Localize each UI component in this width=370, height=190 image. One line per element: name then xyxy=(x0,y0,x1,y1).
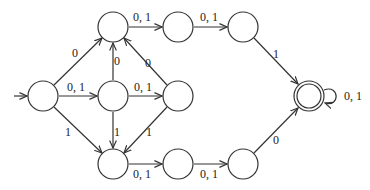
label-q5-q1: 0 xyxy=(145,56,151,70)
label-q8-qf: 0 xyxy=(273,133,279,147)
label-q0-q3: 1 xyxy=(65,125,71,139)
label-q3-q6: 0, 1 xyxy=(133,167,151,181)
label-q0-q2: 0, 1 xyxy=(67,80,85,94)
state-q0 xyxy=(28,81,58,111)
state-q8 xyxy=(228,149,258,179)
state-q3 xyxy=(98,149,128,179)
state-q5 xyxy=(163,81,193,111)
label-q6-q8: 0, 1 xyxy=(200,167,218,181)
automaton-diagram: 0 0, 1 1 0 0, 1 1 0 1 0, 1 0, 1 1 0, 1 0… xyxy=(0,0,370,190)
edge-q0-q1 xyxy=(54,38,102,85)
label-qf-self-loop: 0, 1 xyxy=(344,89,362,103)
label-q5-q3: 1 xyxy=(146,125,152,139)
label-q2-q1: 0 xyxy=(114,54,120,68)
label-q0-q1: 0 xyxy=(72,46,78,60)
state-q4 xyxy=(163,12,193,42)
state-q2 xyxy=(98,81,128,111)
edge-q0-q3 xyxy=(54,107,102,153)
label-q2-q3: 1 xyxy=(114,125,120,139)
edge-qf-self-loop xyxy=(324,89,336,104)
label-q1-q4: 0, 1 xyxy=(133,10,151,24)
label-q4-q7: 0, 1 xyxy=(200,10,218,24)
label-q7-qf: 1 xyxy=(273,47,279,61)
state-q7 xyxy=(228,12,258,42)
state-q6 xyxy=(163,149,193,179)
state-qf-outer xyxy=(294,81,324,111)
state-q1 xyxy=(98,12,128,42)
edge-q7-qf xyxy=(254,38,298,84)
label-q2-q5: 0, 1 xyxy=(134,80,152,94)
